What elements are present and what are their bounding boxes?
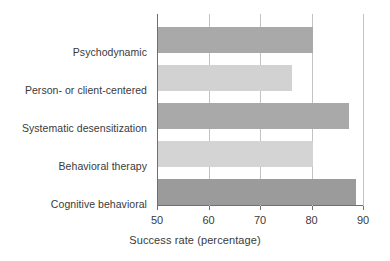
- tick-label-50: 50: [151, 214, 163, 226]
- tick-label-70: 70: [254, 214, 266, 226]
- category-axis-labels: Psychodynamic Person- or client-centered…: [0, 14, 152, 206]
- category-label-behavioral-therapy: Behavioral therapy: [0, 160, 147, 172]
- tick-mark-50: [157, 206, 158, 210]
- tick-label-80: 80: [305, 214, 317, 226]
- tick-mark-80: [312, 206, 313, 210]
- bar-chart: Psychodynamic Person- or client-centered…: [0, 0, 390, 261]
- category-label-systematic-desensitization: Systematic desensitization: [0, 122, 147, 134]
- category-label-cognitive-behavioral: Cognitive behavioral: [0, 198, 147, 210]
- x-axis-title: Success rate (percentage): [0, 234, 390, 246]
- tick-mark-90: [363, 206, 364, 210]
- tick-label-90: 90: [357, 214, 369, 226]
- bar-person-centered: [158, 65, 292, 91]
- bar-psychodynamic: [158, 27, 313, 53]
- tick-label-60: 60: [202, 214, 214, 226]
- tick-mark-70: [260, 206, 261, 210]
- tick-mark-60: [209, 206, 210, 210]
- bar-behavioral-therapy: [158, 141, 313, 167]
- bar-cognitive-behavioral: [158, 179, 356, 205]
- plot-area: 50 60 70 80 90: [157, 14, 363, 206]
- category-label-psychodynamic: Psychodynamic: [0, 46, 147, 58]
- gridline-90: [363, 14, 364, 206]
- category-label-person-centered: Person- or client-centered: [0, 84, 147, 96]
- bar-systematic-desensitization: [158, 103, 349, 129]
